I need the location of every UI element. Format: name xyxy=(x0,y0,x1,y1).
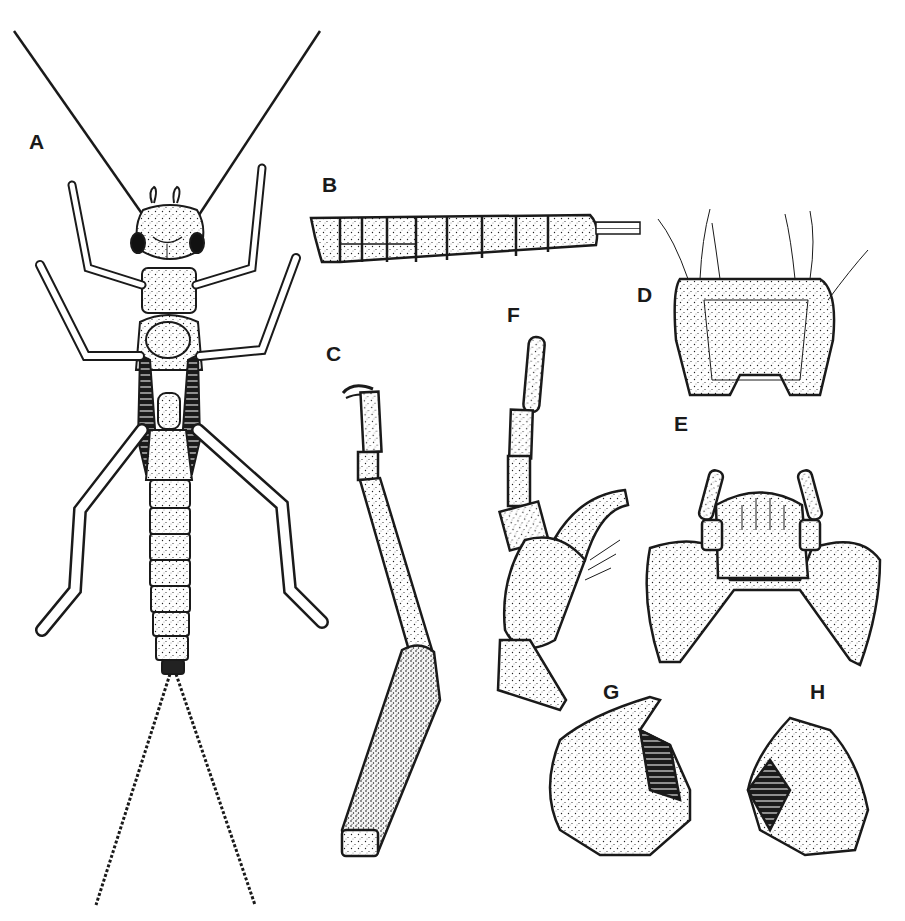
panel-e-labium xyxy=(647,469,880,665)
panel-a-nymph xyxy=(14,31,322,905)
panel-h-mandible-right xyxy=(748,718,868,855)
panel-d-pronotum xyxy=(658,209,868,395)
illustration-canvas xyxy=(0,0,905,921)
figure-plate: A B C D E F G H xyxy=(0,0,905,921)
panel-f-maxilla xyxy=(498,336,628,710)
panel-b-abdomen-lateral xyxy=(311,215,640,262)
panel-c-leg xyxy=(342,386,440,856)
panel-g-mandible-left xyxy=(550,697,690,855)
